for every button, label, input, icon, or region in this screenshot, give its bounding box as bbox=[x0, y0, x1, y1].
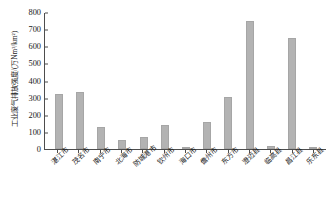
y-axis-tick-label: 300 bbox=[28, 94, 45, 102]
bar-column bbox=[282, 13, 303, 149]
bar-column bbox=[90, 13, 111, 149]
bar-chart: 工业废气排放强度/(万Nm³/km²) 80070060050040030020… bbox=[0, 0, 332, 201]
x-axis-label-slot: 东方市 bbox=[218, 154, 239, 201]
x-axis-label-slot: 澄迈县 bbox=[239, 154, 260, 201]
y-axis-tick-label: 500 bbox=[28, 60, 45, 68]
x-axis-label-slot: 南宁市 bbox=[90, 154, 111, 201]
y-axis-title: 工业废气排放强度/(万Nm³/km²) bbox=[9, 9, 19, 149]
x-axis-label-slot: 乐东县 bbox=[303, 154, 324, 201]
x-axis-label-slot: 儋州市 bbox=[196, 154, 217, 201]
bar-column bbox=[197, 13, 218, 149]
x-axis-label-slot: 海口市 bbox=[175, 154, 196, 201]
y-axis-tick-label: 700 bbox=[28, 26, 45, 34]
bar[interactable] bbox=[140, 137, 148, 149]
bar-column bbox=[112, 13, 133, 149]
bar-column bbox=[175, 13, 196, 149]
bar-column bbox=[133, 13, 154, 149]
x-axis-label-slot: 钦州市 bbox=[154, 154, 175, 201]
x-axis-label-slot: 茂名市 bbox=[68, 154, 89, 201]
bar[interactable] bbox=[203, 122, 211, 149]
bar[interactable] bbox=[224, 97, 232, 149]
x-axis-labels: 湛江市茂名市南宁市北海市防城港市钦州市海口市儋州市东方市澄迈县临高县昌江县乐东县 bbox=[44, 154, 326, 201]
x-axis-label-slot: 防城港市 bbox=[132, 154, 153, 201]
bar[interactable] bbox=[55, 94, 63, 149]
y-axis-tick-label: 100 bbox=[28, 129, 45, 137]
bar[interactable] bbox=[118, 140, 126, 149]
bar-column bbox=[218, 13, 239, 149]
plot-area: 8007006005004003002001000 bbox=[44, 13, 326, 150]
y-axis-tick-label: 200 bbox=[28, 112, 45, 120]
x-axis-label-slot: 昌江县 bbox=[281, 154, 302, 201]
bar-column bbox=[154, 13, 175, 149]
bar-column bbox=[239, 13, 260, 149]
y-axis-tick-label: 400 bbox=[28, 77, 45, 85]
bar[interactable] bbox=[76, 92, 84, 149]
bar-column bbox=[69, 13, 90, 149]
bar[interactable] bbox=[161, 125, 169, 149]
bar-column bbox=[48, 13, 69, 149]
bar[interactable] bbox=[288, 38, 296, 149]
x-axis-label-slot: 临高县 bbox=[260, 154, 281, 201]
bar-series bbox=[45, 13, 326, 149]
x-axis-label-slot: 湛江市 bbox=[47, 154, 68, 201]
x-axis-label-slot: 北海市 bbox=[111, 154, 132, 201]
bar-column bbox=[260, 13, 281, 149]
y-axis-tick-label: 600 bbox=[28, 43, 45, 51]
bar[interactable] bbox=[97, 127, 105, 149]
y-axis-tick-label: 800 bbox=[28, 9, 45, 17]
bar-column bbox=[303, 13, 324, 149]
bar[interactable] bbox=[246, 21, 254, 149]
